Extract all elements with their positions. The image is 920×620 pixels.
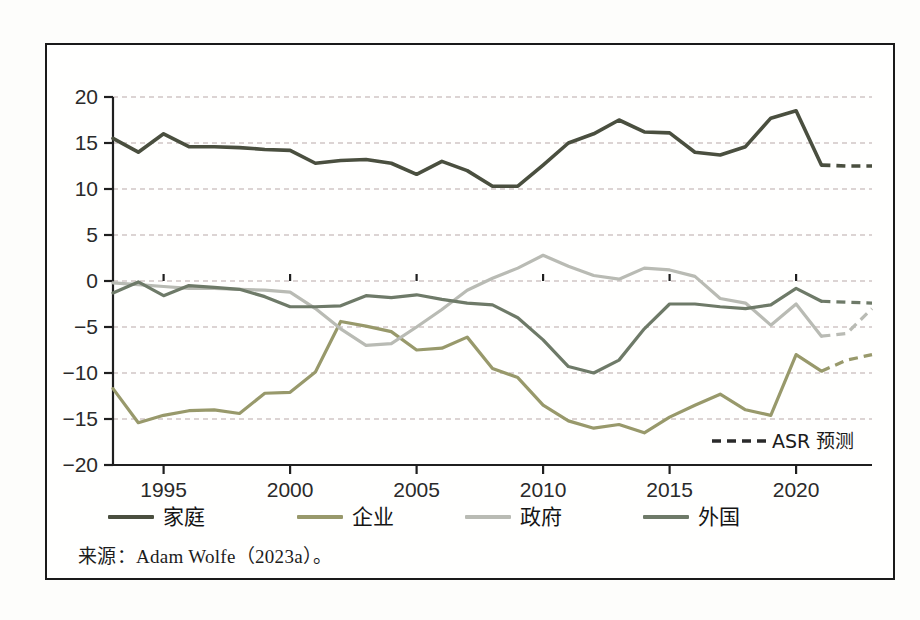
legend-swatch-foreign [643, 515, 689, 519]
legend-item-corporate[interactable]: 企业 [297, 500, 394, 534]
chart-legend: 家庭 企业 政府 外国 [45, 500, 895, 534]
legend-item-foreign[interactable]: 外国 [643, 500, 740, 534]
legend-item-household[interactable]: 家庭 [108, 500, 205, 534]
legend-label-foreign: 外国 [698, 507, 740, 528]
legend-label-corporate: 企业 [352, 507, 394, 528]
legend-item-government[interactable]: 政府 [465, 500, 562, 534]
legend-swatch-household [108, 515, 154, 519]
legend-swatch-government [465, 515, 511, 519]
legend-label-government: 政府 [520, 507, 562, 528]
legend-label-household: 家庭 [163, 507, 205, 528]
source-note: 来源：Adam Wolfe（2023a）。 [78, 541, 333, 568]
legend-swatch-corporate [297, 515, 343, 519]
figure-root: 20151050−5−10−15−20199520002005201020152… [0, 0, 920, 620]
